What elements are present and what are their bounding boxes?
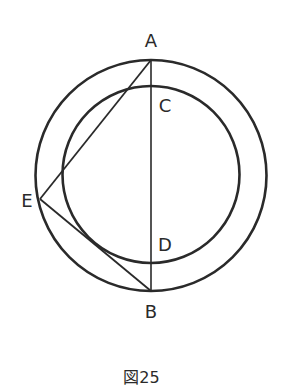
label-d: D [158, 234, 172, 255]
label-a: A [145, 30, 158, 51]
label-c: C [159, 95, 172, 116]
figure-caption: 図25 [0, 364, 283, 388]
label-e: E [21, 190, 32, 211]
label-b: B [145, 301, 157, 322]
segment-ea [40, 60, 151, 199]
